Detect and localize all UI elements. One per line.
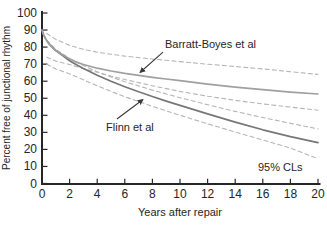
y-tick-label: 10 [24, 159, 38, 173]
x-tick-label: 2 [66, 187, 73, 201]
y-tick-label: 60 [24, 74, 38, 88]
x-tick-label: 16 [256, 187, 270, 201]
x-tick-label: 12 [201, 187, 215, 201]
y-tick-label: 90 [24, 23, 38, 37]
series-line-flinn-lower-cl [47, 64, 318, 159]
junctional-rhythm-chart: 010203040506070809010002468101214161820 … [0, 0, 327, 225]
x-axis-title: Years after repair [138, 206, 222, 218]
annotation-barratt-boyes-label: Barratt-Boyes et al [165, 38, 256, 50]
x-tick-label: 0 [39, 187, 46, 201]
x-tick-label: 4 [94, 187, 101, 201]
annotation-flinn-label: Flinn et al [106, 121, 154, 133]
y-tick-label: 100 [17, 6, 37, 20]
y-tick-label: 40 [24, 108, 38, 122]
annotation-arrow-barratt-boyes-label [140, 52, 163, 72]
y-tick-label: 30 [24, 125, 38, 139]
y-tick-label: 50 [24, 91, 38, 105]
x-tick-label: 18 [284, 187, 298, 201]
x-tick-label: 14 [229, 187, 243, 201]
y-tick-label: 20 [24, 142, 38, 156]
x-tick-label: 20 [311, 187, 325, 201]
annotation-cls-label: 95% CLs [258, 161, 303, 173]
y-tick-label: 80 [24, 40, 38, 54]
x-tick-label: 6 [121, 187, 128, 201]
annotation-arrow-flinn-label [117, 99, 143, 119]
x-tick-label: 8 [149, 187, 156, 201]
plot-area: 010203040506070809010002468101214161820 … [0, 0, 327, 225]
y-tick-label: 0 [30, 177, 37, 191]
x-tick-label: 10 [173, 187, 187, 201]
y-axis-title: Percent free of junctional rhythm [1, 26, 12, 170]
y-tick-label: 70 [24, 57, 38, 71]
